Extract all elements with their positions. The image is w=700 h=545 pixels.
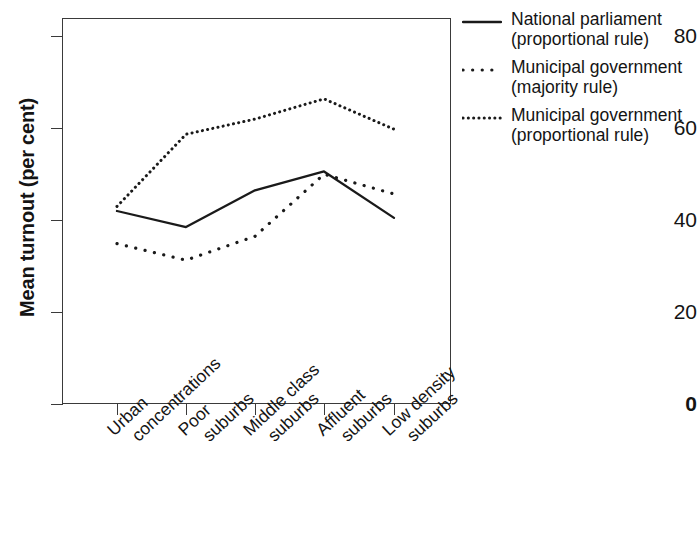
chart-figure: Mean turnout (per cent) 020406080 Urbanc… <box>0 0 700 545</box>
y-tick-label: 0 <box>648 392 700 416</box>
y-tick-mark <box>51 312 63 313</box>
y-tick-mark <box>51 36 63 37</box>
y-tick-label: 20 <box>648 300 700 324</box>
legend-swatch-sparse-dotted-icon <box>462 59 502 81</box>
legend-entry-3: Municipal government (proportional rule) <box>462 106 698 145</box>
y-tick-mark <box>51 220 63 221</box>
legend-label: National parliament (proportional rule) <box>511 10 662 49</box>
chart-legend: National parliament (proportional rule)M… <box>462 10 698 155</box>
legend-label: Municipal government (proportional rule) <box>511 106 682 145</box>
y-tick-mark <box>51 404 63 405</box>
y-tick-mark <box>51 128 63 129</box>
legend-swatch-solid-icon <box>462 11 502 33</box>
y-axis-title: Mean turnout (per cent) <box>16 73 39 343</box>
plot-area <box>62 18 451 404</box>
legend-swatch-dense-dotted-icon <box>462 107 502 129</box>
y-tick-label: 40 <box>648 208 700 232</box>
legend-entry-2: Municipal government (majority rule) <box>462 58 698 97</box>
legend-entry-1: National parliament (proportional rule) <box>462 10 698 49</box>
legend-label: Municipal government (majority rule) <box>511 58 682 97</box>
